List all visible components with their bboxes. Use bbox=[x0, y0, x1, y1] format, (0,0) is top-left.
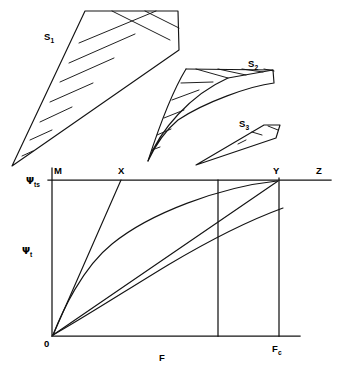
point-label-m: M bbox=[54, 165, 62, 176]
fc-label-subscript: c bbox=[278, 349, 282, 356]
wedge-s3-outline bbox=[196, 125, 280, 165]
origin-label: 0 bbox=[44, 338, 49, 349]
wedge-s3-label-text: S bbox=[239, 118, 246, 129]
psi-ts-symbol: Ψ bbox=[26, 175, 34, 186]
psi-ts-axis-label: Ψts bbox=[26, 170, 40, 188]
fc-label: Fc bbox=[272, 338, 282, 356]
plot-curves bbox=[53, 180, 283, 335]
wedge-s3 bbox=[196, 125, 280, 165]
wedge-s2 bbox=[148, 69, 274, 161]
wedge-s3-label: S3 bbox=[239, 113, 249, 131]
point-label-x: X bbox=[118, 165, 125, 176]
wedge-s1-label: S1 bbox=[44, 26, 54, 44]
psi-t-symbol: Ψ bbox=[22, 245, 30, 256]
wedge-s1-label-text: S bbox=[44, 31, 51, 42]
figure-root: S1 S2 S3 Ψts Ψt M X Y Z 0 F Fc bbox=[0, 0, 340, 376]
wedge-s2-label-text: S bbox=[248, 58, 255, 69]
wedge-s2-label-subscript: 2 bbox=[255, 64, 259, 71]
curve-origin-lower bbox=[53, 208, 283, 335]
psi-ts-subscript: ts bbox=[34, 181, 40, 188]
psi-t-axis-label: Ψt bbox=[22, 240, 32, 258]
psi-t-subscript: t bbox=[30, 251, 32, 258]
wedge-s2-label: S2 bbox=[248, 53, 258, 71]
wedge-s2-outline bbox=[148, 70, 274, 161]
x-axis-label: F bbox=[159, 352, 165, 363]
wedge-s3-label-subscript: 3 bbox=[246, 124, 250, 131]
point-label-z: Z bbox=[316, 165, 322, 176]
wedge-s1-label-subscript: 1 bbox=[51, 37, 55, 44]
wedge-s2-hatching bbox=[152, 69, 274, 150]
figure-canvas bbox=[0, 0, 340, 376]
point-label-y: Y bbox=[273, 165, 280, 176]
